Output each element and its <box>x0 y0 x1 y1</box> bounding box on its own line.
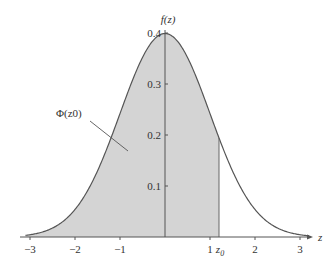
x-tick-label: 2 <box>252 243 258 255</box>
normal-distribution-chart: −3−2−1123z0z0.10.20.30.4f(z)Φ(z0) <box>0 0 330 268</box>
y-tick-label: 0.2 <box>147 129 161 141</box>
x-tick-label: 3 <box>297 243 303 255</box>
x-axis-label: z <box>317 231 323 243</box>
x-tick-label: −1 <box>114 243 126 255</box>
y-tick-label: 0.1 <box>147 180 161 192</box>
y-axis-label: f(z) <box>161 13 176 26</box>
shaded-area-phi-z0 <box>26 34 220 237</box>
y-tick-label: 0.4 <box>147 27 161 39</box>
y-tick-label: 0.3 <box>147 78 161 90</box>
x-tick-label: −3 <box>24 243 36 255</box>
area-label-phi-z0: Φ(z0) <box>56 107 82 120</box>
x-axis-arrow-icon <box>307 235 313 240</box>
x-tick-label: −2 <box>69 243 81 255</box>
x-tick-label: 1 <box>207 243 213 255</box>
z0-label: z0 <box>215 243 224 258</box>
z0-subscript: 0 <box>220 249 224 258</box>
